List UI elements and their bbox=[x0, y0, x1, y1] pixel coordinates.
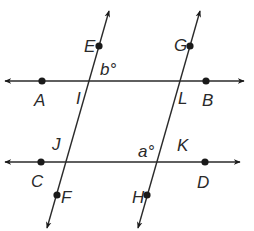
lines-layer bbox=[5, 11, 244, 228]
label-i: I bbox=[76, 89, 81, 108]
point-c bbox=[37, 158, 44, 165]
label-f: F bbox=[61, 188, 73, 207]
label-d: D bbox=[197, 173, 209, 192]
angle-label-b: b° bbox=[100, 60, 116, 79]
label-e: E bbox=[84, 37, 96, 56]
point-h bbox=[143, 191, 150, 198]
label-l: L bbox=[178, 89, 187, 108]
point-a bbox=[38, 77, 45, 84]
label-b: B bbox=[202, 91, 213, 110]
point-e bbox=[95, 42, 102, 49]
label-c: C bbox=[31, 172, 44, 191]
label-k: K bbox=[177, 136, 189, 155]
angle-label-a: a° bbox=[138, 142, 154, 161]
label-g: G bbox=[174, 36, 187, 55]
label-h: H bbox=[132, 188, 145, 207]
point-f bbox=[53, 191, 60, 198]
angles-layer: b°a° bbox=[100, 60, 154, 161]
point-d bbox=[201, 158, 208, 165]
point-b bbox=[202, 77, 209, 84]
label-a: A bbox=[33, 91, 45, 110]
point-g bbox=[186, 42, 193, 49]
label-j: J bbox=[51, 135, 61, 154]
parallel-lines-transversals-diagram: ABCDEGFHILJK b°a° bbox=[0, 0, 254, 231]
